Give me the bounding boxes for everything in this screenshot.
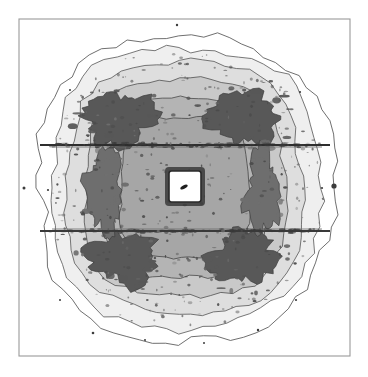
grain-speckle [146,172,150,175]
grain-speckle [285,280,289,282]
grain-speckle [171,113,176,116]
streak-grain [251,146,253,147]
isolated-speckle [144,339,146,341]
grain-speckle [193,256,195,258]
grain-speckle [200,301,201,302]
streak-grain [188,232,194,233]
grain-speckle [106,289,107,290]
grain-speckle [117,203,121,205]
grain-speckle [142,215,145,218]
grain-speckle [61,214,65,217]
lobe-fragment [107,273,115,279]
grain-speckle [154,257,156,259]
grain-speckle [189,324,191,327]
streak-grain [202,231,206,232]
grain-speckle [187,259,191,262]
streak-grain [162,146,168,148]
grain-speckle [260,81,264,82]
grain-speckle [185,276,188,277]
grain-speckle [106,123,110,125]
lobe-fragment [121,182,129,186]
streak-grain [128,143,133,145]
streak-grain [208,230,211,231]
isolated-speckle [203,342,205,344]
grain-speckle [199,276,201,278]
grain-speckle [153,319,155,321]
grain-speckle [136,123,138,125]
isolated-speckle [299,91,301,93]
grain-speckle [151,199,153,200]
grain-speckle [270,101,274,104]
grain-speckle [134,135,136,136]
grain-speckle [172,53,175,55]
isolated-speckle [176,24,178,26]
grain-speckle [108,228,110,231]
grain-speckle [226,110,228,113]
grain-speckle [260,194,264,197]
grain-speckle [270,188,274,191]
grain-speckle [197,313,201,314]
grain-speckle [288,252,290,255]
grain-speckle [225,240,229,243]
grain-speckle [302,217,303,218]
lobe-fragment [73,112,84,114]
grain-speckle [301,147,306,150]
grain-speckle [217,303,219,306]
streak-grain [307,232,309,233]
grain-speckle [207,179,209,180]
grain-speckle [56,239,59,241]
grain-speckle [85,111,87,112]
streak-grain [67,230,71,231]
streak-grain [249,231,253,233]
streak-grain [164,232,168,234]
grain-speckle [264,299,268,300]
grain-speckle [206,154,208,157]
lobe-fragment [95,135,99,137]
grain-speckle [125,76,126,77]
grain-speckle [253,300,257,302]
streak-grain [167,229,175,231]
streak-grain [159,230,165,231]
grain-speckle [262,228,265,231]
streak-grain [49,232,53,233]
streak-grain [271,231,273,232]
lobe-fragment [115,198,120,204]
grain-speckle [281,173,283,176]
streak-grain [92,230,97,232]
grain-speckle [204,87,206,90]
grain-speckle [216,232,219,234]
streak-grain [195,146,198,148]
grain-speckle [146,188,148,191]
grain-speckle [281,133,283,135]
grain-speckle [56,183,58,185]
grain-speckle [181,233,185,236]
grain-speckle [165,119,166,122]
grain-speckle [64,227,66,229]
lobe-fragment [251,89,261,94]
grain-speckle [164,226,169,229]
grain-speckle [149,238,150,240]
grain-speckle [102,252,104,254]
streak-grain [297,146,302,148]
grain-speckle [126,266,130,269]
streak-grain [141,142,145,144]
lobe-fragment [254,291,258,296]
grain-speckle [126,164,128,165]
grain-speckle [188,114,190,116]
grain-speckle [301,130,305,132]
streak-grain [112,229,118,230]
grain-speckle [205,121,208,123]
grain-speckle [243,81,245,84]
grain-speckle [138,105,141,106]
grain-speckle [220,233,221,234]
grain-speckle [162,169,165,170]
grain-speckle [208,269,211,272]
grain-speckle [289,108,294,110]
grain-speckle [94,168,99,171]
grain-speckle [83,144,85,145]
grain-speckle [86,134,90,136]
grain-speckle [101,234,105,237]
streak-grain [256,143,259,145]
streak-grain [68,229,73,230]
grain-speckle [81,253,84,256]
